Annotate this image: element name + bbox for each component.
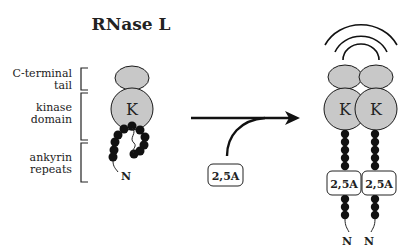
n-terminus-label: N: [121, 170, 131, 183]
domain-labels: C-terminal tail kinase domain ankyrin re…: [13, 67, 73, 176]
free-2-5a-label: 2,5A: [212, 170, 240, 183]
free-2-5a: 2,5A: [208, 164, 243, 186]
diagram-title: RNase L: [92, 14, 171, 34]
dimer-right-n-terminus: N: [364, 235, 374, 248]
dimer-left-n-terminus: N: [342, 235, 352, 248]
dimer-left-subunit: K 2,5A N: [324, 65, 366, 248]
dimer-left-2-5a: 2,5A: [330, 178, 358, 191]
dimer-right-2-5a: 2,5A: [365, 178, 393, 191]
activation-arrow: [191, 111, 300, 156]
bracket-ankyrin: [81, 143, 88, 182]
kinase-letter: K: [126, 100, 139, 119]
activity-arcs: [325, 25, 397, 60]
n-tail: [113, 161, 118, 172]
bracket-kinase: [81, 93, 88, 140]
ankyrin-repeats: [109, 122, 150, 162]
dimer-left-kinase-letter: K: [339, 100, 352, 119]
bracket-c-terminal: [81, 68, 88, 90]
dimer-right-subunit: K 2,5A N: [355, 65, 397, 248]
domain-brackets: [81, 68, 88, 182]
rnase-l-monomer: K N: [109, 66, 154, 183]
curved-input-arrow: [227, 118, 265, 156]
c-terminal-domain: [115, 66, 149, 90]
label-ankyrin-line2: repeats: [30, 163, 72, 176]
linker-squiggle: [132, 128, 135, 153]
label-c-terminal-line2: tail: [54, 79, 72, 92]
label-kinase-line2: domain: [31, 113, 72, 126]
dimer-right-kinase-letter: K: [370, 100, 383, 119]
rnase-l-diagram: RNase L C-terminal tail kinase domain an…: [0, 0, 418, 251]
